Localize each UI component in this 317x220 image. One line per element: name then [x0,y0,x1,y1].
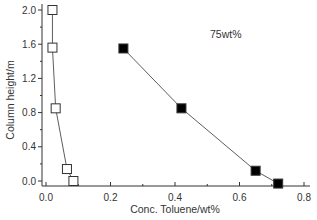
y-tick-label: 1.6 [22,39,36,50]
y-tick-label: 0.8 [22,107,36,118]
open-square-marker [51,104,60,113]
y-tick-label: 2.0 [22,5,36,16]
filled-square-marker [251,166,260,175]
x-tick-label: 0.2 [104,192,118,203]
x-tick-label: 0.8 [297,192,311,203]
series-line [52,10,73,181]
y-tick-label: 1.2 [22,73,36,84]
x-tick-label: 0.6 [233,192,247,203]
x-tick-label: 0.0 [39,192,53,203]
y-tick-label: 0.4 [22,141,36,152]
filled-square-marker [119,44,128,53]
y-axis-title: Column height/m [4,60,16,140]
filled-square-marker [274,179,283,188]
x-axis-title: Conc. Toluene/wt% [130,203,220,215]
open-square-marker [69,177,78,186]
annotation-label: 75wt% [210,28,242,40]
open-square-marker [62,165,71,174]
open-square-marker [48,43,57,52]
x-tick-label: 0.4 [168,192,182,203]
open-square-marker [48,6,57,15]
y-tick-label: 0.0 [22,176,36,187]
filled-square-marker [177,104,186,113]
series-line [123,48,278,183]
plot-series [48,6,283,189]
chart: 0.00.20.40.60.80.00.40.81.21.62.0 75wt% … [0,0,317,220]
